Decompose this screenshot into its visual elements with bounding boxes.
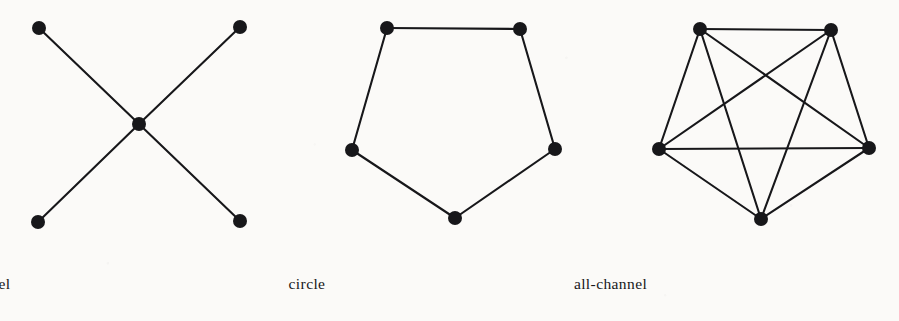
network-node <box>233 214 247 228</box>
network-node <box>862 141 876 155</box>
panel-all-channel: all-channel <box>600 0 899 321</box>
network-edge <box>520 29 555 149</box>
network-edge <box>659 148 869 149</box>
network-node <box>548 142 562 156</box>
network-node <box>380 21 394 35</box>
edge-group <box>659 29 869 219</box>
wheel-network-graph <box>0 0 300 321</box>
network-edge <box>761 148 869 219</box>
circle-network-graph <box>300 0 600 321</box>
network-edge <box>455 149 555 218</box>
network-edge <box>700 29 869 148</box>
network-node <box>754 212 768 226</box>
network-edge <box>38 124 139 222</box>
network-node <box>652 142 666 156</box>
network-edge <box>761 30 831 219</box>
network-node <box>233 20 247 34</box>
network-node <box>513 22 527 36</box>
network-node <box>693 22 707 36</box>
network-edge <box>659 30 831 149</box>
network-edge <box>831 30 869 148</box>
caption-circle: circle <box>157 276 457 292</box>
panel-wheel: wheel <box>0 0 300 321</box>
network-edge <box>659 29 700 149</box>
figure-root: wheel circle all-channel <box>0 0 899 321</box>
network-edge <box>700 29 831 30</box>
network-node <box>448 211 462 225</box>
network-edge <box>139 124 240 221</box>
panel-circle: circle <box>300 0 600 321</box>
network-edge <box>39 28 139 124</box>
caption-wheel: wheel <box>0 276 141 292</box>
network-node <box>824 23 838 37</box>
network-node <box>132 117 146 131</box>
network-node <box>345 143 359 157</box>
network-edge <box>659 149 761 219</box>
network-node <box>31 215 45 229</box>
network-node <box>32 21 46 35</box>
edge-group <box>352 28 555 218</box>
network-edge <box>700 29 761 219</box>
node-group <box>345 21 562 225</box>
network-edge <box>352 150 455 218</box>
network-edge <box>352 28 387 150</box>
caption-all-channel: all-channel <box>461 276 760 292</box>
node-group <box>652 22 876 226</box>
network-edge <box>387 28 520 29</box>
network-edge <box>139 27 240 124</box>
all-channel-network-graph <box>600 0 899 321</box>
